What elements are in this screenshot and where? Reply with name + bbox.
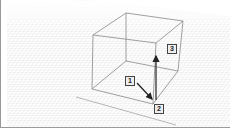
- callout-3: 3: [167, 44, 177, 54]
- scene: [1, 0, 230, 128]
- callout-2: 2: [154, 104, 164, 114]
- 3d-viewport[interactable]: 1 2 3: [0, 0, 230, 128]
- callout-1: 1: [125, 76, 135, 86]
